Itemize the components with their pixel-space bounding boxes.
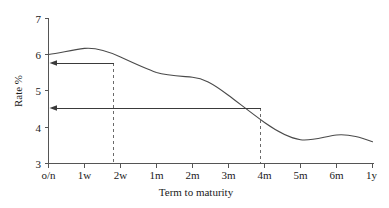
yield-curve-chart: 7 6 5 4 3 o/n 1w 2w 1m 2m 3m 4m 5m 6m 1y… (0, 0, 389, 208)
x-tick-label-on: o/n (41, 169, 56, 181)
x-tick-label-1y: 1y (366, 169, 378, 181)
x-tick-label-1m: 1m (149, 169, 164, 181)
y-axis-title: Rate % (12, 75, 24, 107)
x-axis-ticks (49, 164, 373, 168)
x-axis-title: Term to maturity (159, 186, 234, 198)
x-tick-label-3m: 3m (221, 169, 236, 181)
x-tick-label-2m: 2m (185, 169, 200, 181)
x-tick-label-4m: 4m (257, 169, 272, 181)
x-tick-label-2w: 2w (114, 169, 128, 181)
y-tick-label-3: 3 (36, 158, 42, 170)
y-tick-label-4: 4 (36, 122, 42, 134)
yield-curve-line (49, 48, 373, 142)
x-tick-label-5m: 5m (293, 169, 308, 181)
arrow-head-short-rate (50, 60, 58, 66)
x-tick-label-1w: 1w (78, 169, 92, 181)
arrow-head-long-rate (50, 105, 58, 111)
y-tick-label-7: 7 (36, 13, 42, 25)
y-axis-ticks (45, 19, 49, 164)
chart-canvas: 7 6 5 4 3 o/n 1w 2w 1m 2m 3m 4m 5m 6m 1y… (0, 0, 389, 208)
y-tick-label-6: 6 (36, 49, 42, 61)
x-tick-label-6m: 6m (329, 169, 344, 181)
y-tick-label-5: 5 (36, 85, 42, 97)
